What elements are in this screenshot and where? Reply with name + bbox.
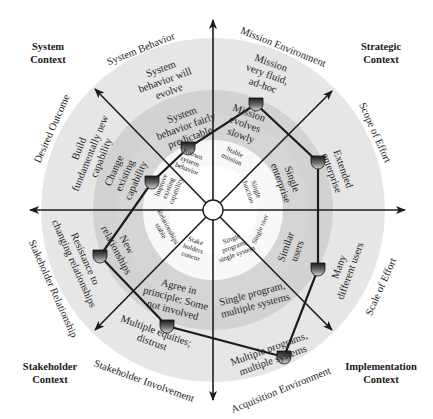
marker-scale-of-effort [311,263,325,276]
marker-stakeholder-relationship [93,250,107,263]
context-system-line2: Context [18,53,78,66]
center-hub [203,200,223,220]
context-radar-diagram: System Behavior Mission Environment Scop… [0,0,433,419]
context-label-system: System Context [18,40,78,66]
context-label-implementation: Implementation Context [333,360,429,386]
context-strategic-line1: Strategic [346,40,416,53]
context-stakeholder-line2: Context [10,373,90,386]
context-strategic-line2: Context [346,53,416,66]
context-system-line1: System [18,40,78,53]
context-implementation-line2: Context [333,373,429,386]
context-stakeholder-line1: Stakeholder [10,360,90,373]
context-implementation-line1: Implementation [333,360,429,373]
context-label-stakeholder: Stakeholder Context [10,360,90,386]
context-label-strategic: Strategic Context [346,40,416,66]
